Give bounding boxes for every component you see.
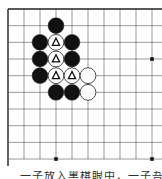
white-stone (80, 68, 96, 84)
black-stone (64, 84, 80, 100)
diagram-caption: 一子放入黑棋眼中，一子吾以 (20, 171, 162, 179)
black-stone (48, 18, 64, 34)
caption-text: 一子放入黑棋眼中，一子吾以 (20, 171, 162, 179)
black-stone (64, 51, 80, 67)
black-stone (32, 34, 48, 50)
star-point-icon (150, 57, 154, 61)
white-stone (48, 51, 64, 67)
white-stone (80, 84, 96, 100)
white-stone (64, 68, 80, 84)
go-board[interactable] (0, 0, 162, 170)
black-stone (32, 68, 48, 84)
black-stone (32, 51, 48, 67)
star-point-icon (150, 157, 154, 161)
white-stone (48, 68, 64, 84)
black-stone (64, 34, 80, 50)
star-point-icon (54, 157, 58, 161)
white-stone (48, 34, 64, 50)
black-stone (48, 84, 64, 100)
